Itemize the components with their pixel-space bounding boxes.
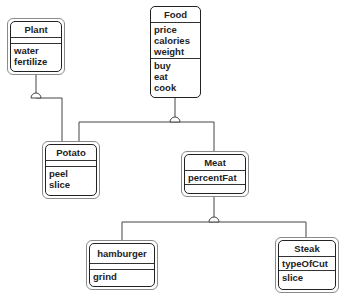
attributes-section: typeOfCut	[279, 256, 335, 270]
class-steak[interactable]: Steak typeOfCut slice	[275, 237, 339, 293]
operations-section: grind	[90, 269, 154, 286]
plant-potato-link	[36, 72, 62, 144]
operation: eat	[154, 71, 197, 82]
attribute: typeOfCut	[282, 258, 332, 269]
operation: grind	[93, 271, 151, 282]
class-name: Plant	[11, 22, 61, 37]
class-potato[interactable]: Potato peel slice	[42, 141, 100, 199]
operations-section	[185, 184, 245, 193]
attribute: weight	[154, 46, 197, 57]
attribute: percentFat	[188, 172, 242, 183]
class-meat[interactable]: Meat percentFat	[181, 151, 249, 197]
class-name: Food	[151, 7, 200, 22]
operations-section: buy eat cook	[151, 58, 200, 97]
operation: buy	[154, 60, 197, 71]
operation: water	[14, 45, 58, 56]
food-generalization-arc-icon	[170, 117, 180, 122]
operation: cook	[154, 82, 197, 93]
class-name: Steak	[279, 241, 335, 256]
operations-section: water fertilize	[11, 43, 61, 71]
attributes-section: price calories weight	[151, 22, 200, 58]
class-name: Meat	[185, 155, 245, 170]
attribute: price	[154, 24, 197, 35]
operation: peel	[49, 168, 93, 179]
operation: slice	[49, 179, 93, 190]
class-name: Potato	[46, 145, 96, 160]
attributes-section: percentFat	[185, 170, 245, 184]
class-name: hamburger	[90, 244, 154, 263]
operations-section: slice	[279, 270, 335, 289]
operation: fertilize	[14, 56, 58, 67]
operation: slice	[282, 272, 332, 283]
class-hamburger[interactable]: hamburger grind	[86, 240, 158, 290]
class-food[interactable]: Food price calories weight buy eat cook	[150, 6, 201, 98]
plant-generalization-arc-icon	[31, 93, 41, 98]
attribute: calories	[154, 35, 197, 46]
class-plant[interactable]: Plant water fertilize	[7, 18, 65, 75]
meat-generalization-arc-icon	[209, 217, 219, 222]
operations-section: peel slice	[46, 166, 96, 195]
